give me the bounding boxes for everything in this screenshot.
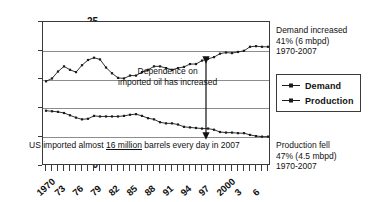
data-point [243, 50, 245, 52]
data-point [171, 122, 173, 124]
demand-increase-line1: Demand increased [276, 25, 347, 36]
imports-annotation-suffix: barrels every day in 2007 [142, 140, 240, 150]
data-point [57, 111, 59, 113]
x-axis-label-94: 94 [178, 183, 193, 198]
data-point [69, 114, 71, 116]
data-point [159, 121, 161, 123]
x-tickmark [111, 165, 112, 171]
x-tickmark [159, 165, 160, 171]
x-tickmark [99, 165, 100, 171]
x-tickmark [183, 165, 184, 171]
data-point [51, 110, 53, 112]
data-point [111, 72, 113, 74]
data-point [69, 69, 71, 71]
data-point [75, 117, 77, 119]
imports-annotation-prefix: US imported almost [29, 140, 106, 150]
legend-item-production[interactable]: Production [281, 94, 354, 107]
data-point [189, 126, 191, 128]
x-tickmark [45, 165, 46, 171]
data-point [249, 134, 251, 136]
production-fall-line1: Production fell [276, 140, 336, 151]
data-point [153, 118, 155, 120]
data-point [225, 131, 227, 133]
production-fall-annotation: Production fell 47% (4.5 mbpd) 1970-2007 [276, 140, 336, 172]
x-tickmark [51, 165, 52, 171]
x-axis-label-97: 97 [196, 183, 211, 198]
dependence-annotation-line1: Dependence on [118, 66, 217, 77]
x-tickmark [165, 165, 166, 171]
x-tickmark [153, 165, 154, 171]
x-axis-label-79: 79 [88, 183, 103, 198]
x-tickmark [195, 165, 196, 171]
x-tickmark [147, 165, 148, 171]
x-tickmark [75, 165, 76, 171]
data-point [231, 131, 233, 133]
x-axis-label-91: 91 [160, 183, 175, 198]
imports-annotation-emphasis: 16 million [106, 140, 142, 150]
demand-increase-line2: 41% (6 mbpd) [276, 36, 347, 47]
x-tickmark [255, 165, 256, 171]
data-point [75, 71, 77, 73]
x-tickmark [123, 165, 124, 171]
legend-label-demand: Demand [305, 81, 341, 91]
data-point [45, 110, 47, 112]
x-tickmark [237, 165, 238, 171]
data-point [231, 52, 233, 54]
data-point [99, 58, 101, 60]
x-axis-label-3: 3 [232, 186, 243, 198]
data-point [141, 115, 143, 117]
data-point [213, 56, 215, 58]
x-tickmark [219, 165, 220, 171]
data-point [135, 113, 137, 115]
x-tickmark [81, 165, 82, 171]
data-point [261, 136, 263, 138]
series-line-production [46, 111, 268, 137]
data-point [105, 115, 107, 117]
x-tickmark [261, 165, 262, 171]
x-tickmark [177, 165, 178, 171]
data-point [117, 115, 119, 117]
x-tickmark [57, 165, 58, 171]
data-point [267, 136, 269, 138]
data-point [57, 70, 59, 72]
data-point [93, 57, 95, 59]
x-tickmark [207, 165, 208, 171]
data-point [219, 53, 221, 55]
x-tickmark [93, 165, 94, 171]
legend-label-production: Production [305, 96, 354, 106]
data-point [189, 63, 191, 65]
x-tickmark [129, 165, 130, 171]
demand-increase-annotation: Demand increased 41% (6 mbpd) 1970-2007 [276, 25, 347, 57]
data-point [123, 115, 125, 117]
data-point [255, 135, 257, 137]
production-line-icon [281, 96, 301, 105]
data-point [237, 132, 239, 134]
x-tickmark [135, 165, 136, 171]
data-point [219, 131, 221, 133]
data-point [213, 129, 215, 131]
x-tickmark [243, 165, 244, 171]
x-tickmark [267, 165, 268, 171]
data-point [111, 115, 113, 117]
data-point [87, 118, 89, 120]
data-point [63, 112, 65, 114]
data-point [129, 114, 131, 116]
x-tickmark [189, 165, 190, 171]
x-tickmark [213, 165, 214, 171]
x-axis-label-6: 6 [250, 186, 261, 198]
production-fall-line2: 47% (4.5 mbpd) [276, 151, 336, 162]
x-tickmark [105, 165, 106, 171]
data-point [105, 66, 107, 68]
data-point [81, 64, 83, 66]
data-point [243, 132, 245, 134]
dependence-annotation-line2: imported oil has increased [118, 77, 217, 88]
oil-demand-production-chart: 25 20 15 10 5 0 197073767982858891949720… [0, 0, 372, 202]
legend-item-demand[interactable]: Demand [281, 79, 354, 92]
production-fall-line3: 1970-2007 [276, 161, 336, 172]
x-axis-label-88: 88 [142, 183, 157, 198]
data-point [99, 115, 101, 117]
x-tickmark [201, 165, 202, 171]
data-point [51, 77, 53, 79]
x-axis-label-85: 85 [124, 183, 139, 198]
x-tickmark [231, 165, 232, 171]
